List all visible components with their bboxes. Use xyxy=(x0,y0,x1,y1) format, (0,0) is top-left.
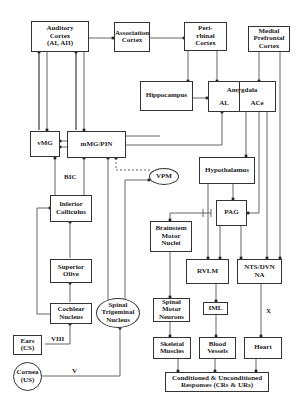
skeletal-muscles-node: Skeletal Muscles xyxy=(153,337,191,359)
perirhinal-cortex-node: Peri- rhinal Cortex xyxy=(184,22,227,51)
medial-prefrontal-cortex-node: Medial Prefrontal Cortex xyxy=(248,26,290,52)
association-cortex-node: Association Cortex xyxy=(114,22,150,52)
amygdala-ace-region: ACe xyxy=(239,100,275,108)
spinal-motor-neurons-node: Spinal Motor Neurons xyxy=(153,298,190,322)
hippocampus-node: Hippocampus xyxy=(140,81,193,111)
cochlear-nucleus-node: Cochlear Nucleus xyxy=(50,303,92,324)
nts-dvn-na-node: NTS/DVN NA xyxy=(237,259,282,284)
responses-node: Conditioned & Unconditioned Responses (C… xyxy=(165,372,269,392)
spinal-trigeminal-nucleus-node: Spinal Trigeminal Nucleus xyxy=(96,298,140,328)
v-label: V xyxy=(72,367,77,375)
heart-node: Heart xyxy=(244,337,282,359)
amygdala-title: Amygdala xyxy=(209,87,275,95)
x-label: X xyxy=(266,307,271,315)
vpm-node: VPM xyxy=(149,168,179,185)
inferior-colliculus-node: Inferior Colliculus xyxy=(50,195,92,222)
superior-olive-node: Superior Olive xyxy=(50,259,92,283)
viii-label: VIII xyxy=(51,335,64,343)
auditory-cortex-node: Auditory Cortex (AI, AII) xyxy=(31,21,89,52)
vmg-node: vMG xyxy=(30,131,60,157)
neural-circuit-diagram: Auditory Cortex (AI, AII) Association Co… xyxy=(0,0,303,411)
hypothalamus-node: Hypothalamus xyxy=(199,157,255,184)
rvlm-node: RVLM xyxy=(186,259,229,284)
cornea-us-node: Cornea (US) xyxy=(13,362,42,391)
amygdala-node: Amygdala AL ACe xyxy=(208,81,276,112)
mmg-pin-node: mMG/PIN xyxy=(67,131,126,158)
pag-node: PAG xyxy=(216,200,247,226)
amygdala-al-region: AL xyxy=(209,100,239,108)
blood-vessels-node: Blood Vessels xyxy=(199,337,236,359)
ears-cs-node: Ears (CS) xyxy=(13,335,42,355)
brainstem-motor-nuclei-node: Brainstem Motor Nuclei xyxy=(150,221,192,252)
bic-label: BIC xyxy=(64,173,76,181)
iml-node: IML xyxy=(203,302,228,315)
